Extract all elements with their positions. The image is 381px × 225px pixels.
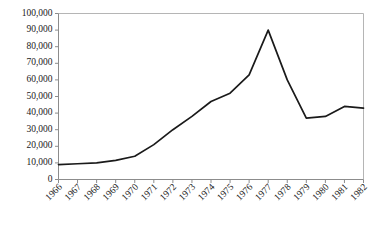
y-tick-label: 90,000 [26, 24, 52, 34]
y-tick-label: 40,000 [26, 107, 52, 117]
y-tick-label: 0 [48, 174, 53, 184]
y-tick-label: 50,000 [26, 91, 52, 101]
y-axis-tick-labels: 010,00020,00030,00040,00050,00060,00070,… [22, 8, 53, 184]
y-tick-label: 30,000 [26, 124, 52, 134]
y-tick-label: 100,000 [22, 8, 53, 18]
chart-canvas: 010,00020,00030,00040,00050,00060,00070,… [0, 0, 381, 225]
y-tick-label: 20,000 [26, 140, 52, 150]
y-tick-label: 60,000 [26, 74, 52, 84]
y-tick-label: 70,000 [26, 57, 52, 67]
y-tick-label: 80,000 [26, 41, 52, 51]
y-tick-label: 10,000 [26, 157, 52, 167]
line-chart: 010,00020,00030,00040,00050,00060,00070,… [0, 0, 381, 225]
